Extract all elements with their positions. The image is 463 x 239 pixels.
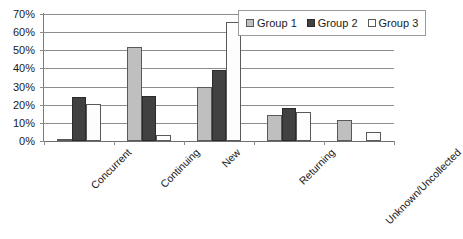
y-axis-tick — [40, 68, 44, 69]
bar-group-2-returning — [282, 108, 296, 141]
x-axis-tick — [324, 141, 325, 145]
bar-group-3-returning — [296, 112, 310, 141]
y-axis-tick-label: 60% — [13, 27, 35, 38]
legend-swatch-icon — [246, 19, 254, 27]
legend-label: Group 3 — [379, 18, 419, 29]
y-axis-tick — [40, 50, 44, 51]
y-axis-tick — [40, 32, 44, 33]
gridline — [44, 50, 394, 51]
y-axis-tick-label: 0% — [19, 136, 35, 147]
legend-label: Group 1 — [257, 18, 297, 29]
x-axis-tick — [394, 141, 395, 145]
bar-group-3-unknown-uncollected — [366, 132, 380, 141]
y-axis-tick-label: 10% — [13, 117, 35, 128]
bar-group-1-unknown-uncollected — [337, 120, 351, 141]
legend-swatch-icon — [368, 19, 376, 27]
y-axis-tick-label: 30% — [13, 81, 35, 92]
y-axis-tick-label: 70% — [13, 9, 35, 20]
legend-entry-group-3: Group 3 — [368, 18, 419, 29]
y-axis-labels: 0%10%20%30%40%50%60%70% — [0, 0, 40, 141]
x-axis-category-label: Continuing — [158, 146, 202, 190]
x-axis-category-label: Unknown/Uncollected — [383, 146, 463, 226]
y-axis-tick — [40, 105, 44, 106]
y-axis-tick-label: 40% — [13, 63, 35, 74]
x-axis-tick — [114, 141, 115, 145]
x-axis-category-label: Concurrent — [89, 146, 134, 191]
y-axis-tick — [40, 87, 44, 88]
legend-entry-group-2: Group 2 — [307, 18, 358, 29]
bar-group-3-new — [226, 22, 240, 141]
y-axis-tick — [40, 14, 44, 15]
x-axis-tick — [44, 141, 45, 145]
legend-label: Group 2 — [318, 18, 358, 29]
legend-swatch-icon — [307, 19, 315, 27]
legend-entry-group-1: Group 1 — [246, 18, 297, 29]
bar-group-1-returning — [267, 115, 281, 141]
bar-group-2-continuing — [142, 96, 156, 141]
bar-group-1-new — [197, 87, 211, 141]
bar-group-1-continuing — [127, 47, 141, 141]
bar-group-3-concurrent — [86, 104, 100, 141]
y-axis-tick-label: 20% — [13, 99, 35, 110]
bar-group-2-concurrent — [72, 97, 86, 141]
chart-legend: Group 1 Group 2 Group 3 — [238, 10, 426, 36]
bar-group-2-new — [212, 70, 226, 141]
x-axis-tick — [184, 141, 185, 145]
y-axis-tick — [40, 123, 44, 124]
x-axis-line — [43, 141, 395, 142]
x-axis-category-label: New — [220, 146, 243, 169]
x-axis-category-label: Returning — [297, 146, 338, 187]
x-axis-tick — [254, 141, 255, 145]
y-axis-tick-label: 50% — [13, 45, 35, 56]
